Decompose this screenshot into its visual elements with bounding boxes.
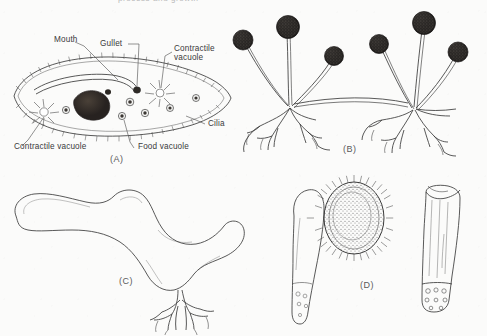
contractile-vacuole-left	[29, 99, 59, 126]
mouth-opening	[133, 87, 140, 93]
rhizoid-tips	[156, 317, 209, 335]
elongated-cell	[292, 190, 324, 324]
rhizoids	[362, 109, 456, 156]
filament-contours	[24, 197, 220, 284]
sporangiophore-cluster-left	[233, 16, 344, 153]
figure-sheet: process and growth	[0, 0, 487, 336]
panel-d-drawing	[276, 172, 487, 336]
micronucleus	[105, 89, 111, 94]
cut-off-header-text: process and growth	[118, 0, 258, 4]
panel-c: (C)	[2, 180, 250, 336]
panel-c-drawing	[2, 180, 250, 336]
rhizoids	[244, 108, 330, 152]
tubular-structure	[422, 185, 460, 312]
panel-b: (B)	[216, 8, 487, 168]
basal-rhizoids	[150, 290, 214, 330]
macronucleus	[74, 91, 110, 121]
panel-label-b: (B)	[343, 144, 357, 154]
label-contractile-vacuole-lower: Contractile vacuole	[14, 142, 86, 151]
label-food-vacuole: Food vacuole	[138, 142, 189, 151]
stolon	[294, 98, 408, 107]
panel-label-a: (A)	[110, 154, 124, 164]
contractile-vacuole-right	[145, 80, 175, 107]
sporangiophore-cluster-right	[362, 12, 468, 157]
label-gullet: Gullet	[100, 39, 122, 48]
panel-label-c: (C)	[119, 276, 133, 286]
label-mouth: Mouth	[54, 35, 78, 44]
cilia-fringe	[16, 53, 222, 142]
panel-label-d: (D)	[360, 280, 374, 290]
panel-d: (D)	[276, 172, 487, 336]
panel-a: Mouth Gullet Contractile vacuole Cilia C…	[0, 18, 243, 168]
